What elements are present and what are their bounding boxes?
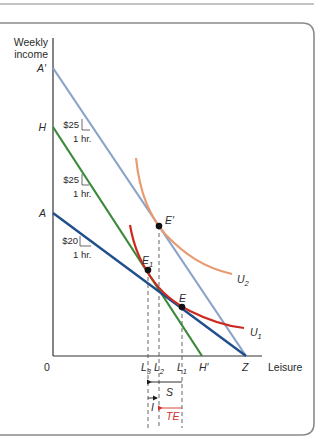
figure-border <box>0 23 314 435</box>
slope-time-3: 1 hr. <box>73 249 92 260</box>
labor-leisure-diagram: Weekly income Leisure 0 A′ H A $25 1 hr.… <box>0 0 325 445</box>
slope-amount-3: $20 <box>62 235 78 246</box>
point-h-label: H <box>38 121 46 133</box>
total-effect-arrow: TE <box>162 408 182 422</box>
x-label-h-prime: H′ <box>199 361 210 373</box>
slope-amount-2: $25 <box>63 174 79 185</box>
x-label-l3: L3 <box>141 361 152 376</box>
origin-label: 0 <box>44 361 50 373</box>
equilibrium-label-e: E <box>179 292 187 304</box>
budget-line-a-z <box>53 213 246 356</box>
x-label-l2: L2 <box>154 361 165 376</box>
curve-label-u2: U2 <box>237 273 250 288</box>
y-axis-label-line2: income <box>14 48 48 60</box>
equilibrium-point-e-prime <box>156 223 163 230</box>
slope-amount-1: $25 <box>63 119 79 130</box>
slope-indicator-1: $25 1 hr. <box>63 119 91 144</box>
curve-label-u1: U1 <box>250 326 262 341</box>
equilibrium-label-e-prime: E′ <box>165 214 175 226</box>
x-label-z: Z <box>241 361 249 373</box>
substitution-effect-arrow: S <box>151 382 182 398</box>
point-a-label: A <box>38 207 46 219</box>
x-label-l1: L1 <box>177 361 187 376</box>
total-effect-label: TE <box>166 410 180 422</box>
income-effect-arrow: I <box>148 398 157 413</box>
substitution-effect-label: S <box>166 386 173 398</box>
equilibrium-point-e <box>179 304 186 311</box>
slope-time-1: 1 hr. <box>73 133 92 144</box>
y-axis-label-line1: Weekly <box>14 36 49 48</box>
indifference-curve-u2 <box>136 158 232 274</box>
x-axis-label: Leisure <box>268 361 303 373</box>
slope-time-2: 1 hr. <box>73 188 92 199</box>
income-effect-label: I <box>151 401 154 413</box>
point-a-prime-label: A′ <box>36 62 47 74</box>
